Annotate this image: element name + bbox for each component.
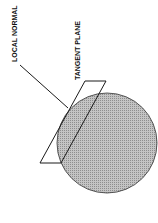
- tangent-plane-label: TANGENT PLANE: [74, 21, 81, 80]
- tangent-plane-diagram: LOCAL NORMAL TANGENT PLANE: [0, 0, 158, 223]
- local-normal-line: [20, 65, 68, 108]
- local-normal-label: LOCAL NORMAL: [11, 5, 18, 62]
